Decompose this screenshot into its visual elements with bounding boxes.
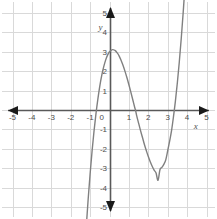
y-tick-label: -5 [100, 203, 108, 212]
x-tick-label: 3 [165, 113, 170, 122]
x-tick-label: -3 [48, 113, 56, 122]
x-tick-label: -4 [28, 113, 36, 122]
y-tick-label: -3 [100, 164, 108, 173]
x-tick-label: 1 [127, 113, 132, 122]
x-tick-label: -2 [67, 113, 75, 122]
x-tick-label: -1 [87, 113, 95, 122]
y-tick-label: 1 [103, 87, 108, 96]
x-tick-label: 5 [204, 113, 209, 122]
graph-canvas: -5-4-3-2-1012345-5-4-3-2-112345 yx [0, 0, 217, 219]
x-tick-label: 2 [146, 113, 151, 122]
y-tick-label: 4 [103, 28, 108, 37]
x-tick-label: 0 [100, 113, 105, 122]
y-tick-label: -1 [100, 125, 108, 134]
x-tick-label: -5 [9, 113, 17, 122]
y-tick-label: 5 [103, 9, 108, 18]
x-axis-label: x [193, 121, 198, 131]
y-tick-label: -4 [100, 184, 108, 193]
x-tick-label: 4 [185, 113, 190, 122]
y-axis-label: y [98, 22, 103, 32]
cubic-function-graph: -5-4-3-2-1012345-5-4-3-2-112345 yx [0, 0, 217, 219]
y-tick-label: -2 [100, 145, 108, 154]
